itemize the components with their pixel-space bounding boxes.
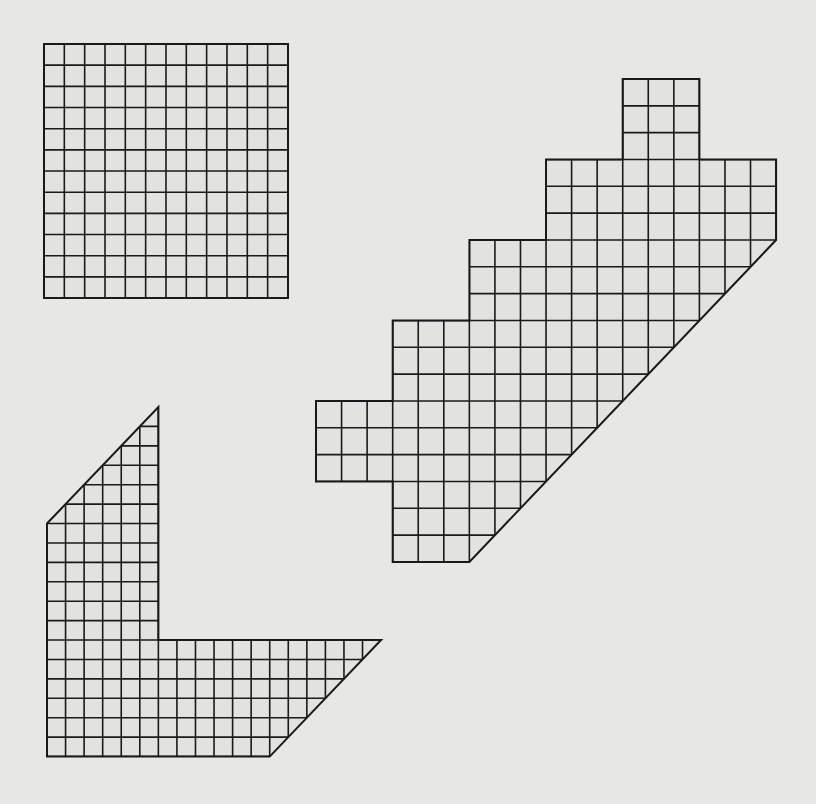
figure-canvas xyxy=(0,0,816,804)
grid-lines xyxy=(316,79,776,562)
staircase-grid xyxy=(316,79,776,562)
square-grid xyxy=(44,44,288,298)
